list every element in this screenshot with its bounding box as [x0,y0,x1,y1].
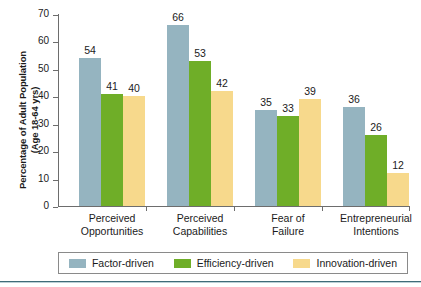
bar-value-label: 41 [106,80,118,92]
category-label-line: Entrepreneurial [316,212,421,225]
bar-value-label: 42 [216,77,228,89]
bar-group: 362612 [343,14,409,206]
bar: 40 [123,96,145,206]
y-tick-mark [53,42,58,43]
y-tick-label: 40 [38,90,49,101]
bar: 42 [211,91,233,206]
bar: 53 [189,61,211,206]
bottom-divider-shadow [0,282,421,283]
y-tick-mark [53,70,58,71]
y-axis-line [58,14,59,207]
bar: 35 [255,110,277,206]
y-tick-mark [53,97,58,98]
legend-label-factor-driven: Factor-driven [92,257,154,269]
bar: 39 [299,99,321,206]
x-axis-separator-end [409,207,410,211]
bar-value-label: 54 [84,44,96,56]
y-tick-label: 70 [38,8,49,19]
x-axis-separator [322,207,323,211]
y-tick-label: 20 [38,145,49,156]
legend-swatch-icon-factor-driven [69,259,86,268]
y-tick-mark [53,152,58,153]
y-tick-mark [53,207,58,208]
bar: 41 [101,94,123,206]
bar-value-label: 36 [348,93,360,105]
y-tick-label: 30 [38,118,49,129]
legend-label-innovation-driven: Innovation-driven [316,257,397,269]
bar-chart: Percentage of Adult Population (Age 18-6… [0,0,421,287]
legend-item-factor-driven: Factor-driven [69,257,154,269]
category-label: EntrepreneurialIntentions [316,212,421,238]
bar-group: 353339 [255,14,321,206]
bar: 54 [79,58,101,206]
bar-value-label: 40 [128,82,140,94]
y-tick-label: 50 [38,63,49,74]
legend-label-efficiency-driven: Efficiency-driven [197,257,274,269]
legend-swatch-icon-efficiency-driven [174,259,191,268]
category-label-line: Intentions [316,225,421,238]
bar: 36 [343,107,365,206]
bar-value-label: 33 [282,102,294,114]
chart-legend: Factor-driven Efficiency-driven Innovati… [58,252,408,274]
bar-value-label: 66 [172,11,184,23]
bar-group: 544140 [79,14,145,206]
y-tick-mark [53,15,58,16]
legend-item-efficiency-driven: Efficiency-driven [174,257,274,269]
x-axis-separator [234,207,235,211]
y-tick-label: 0 [43,200,49,211]
bar: 26 [365,135,387,206]
bar: 12 [387,173,409,206]
y-axis-title-line1: Percentage of Adult Population [17,20,29,220]
bar-value-label: 53 [194,47,206,59]
bar-value-label: 26 [370,121,382,133]
legend-item-innovation-driven: Innovation-driven [293,257,397,269]
y-tick-mark [53,125,58,126]
bar-value-label: 35 [260,96,272,108]
bar: 33 [277,116,299,207]
legend-swatch-icon-innovation-driven [293,259,310,268]
plot-area: 010203040506070 544140665342353339362612 [58,14,410,207]
bar-value-label: 12 [392,159,404,171]
y-tick-mark [53,180,58,181]
y-tick-label: 10 [38,173,49,184]
y-tick-label: 60 [38,35,49,46]
bar: 66 [167,25,189,206]
bar-value-label: 39 [304,85,316,97]
bar-group: 665342 [167,14,233,206]
x-axis-separator [146,207,147,211]
